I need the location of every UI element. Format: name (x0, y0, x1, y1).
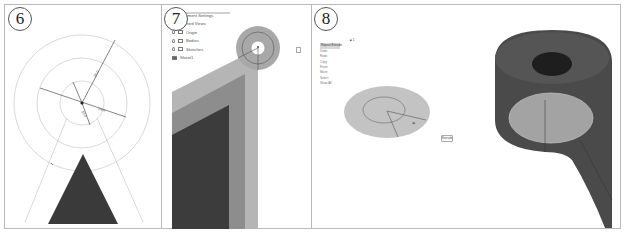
selected-profile (344, 86, 430, 138)
highlighted-section (509, 93, 593, 143)
extrude-ok-button[interactable]: Extrude (441, 135, 453, 142)
context-menu: ■ 1 Repeat Extrude Undo Redo Copy Paste … (320, 38, 354, 87)
step-badge: 8 (314, 7, 338, 31)
menu-item[interactable]: Show All (320, 81, 354, 86)
bracket-hole (532, 52, 572, 76)
panel-8-model: ⌖ (0, 0, 626, 236)
